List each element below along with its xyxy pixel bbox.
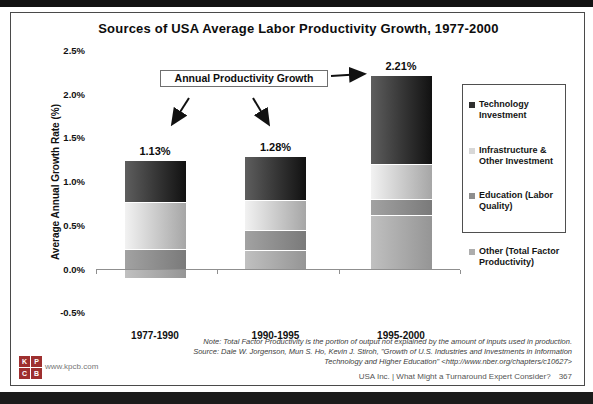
other-total-factor-productivity-swatch-icon	[469, 249, 475, 255]
y-tick-label-1.5pct: 1.5%	[41, 132, 85, 143]
bottom-letterbox-bar	[0, 392, 593, 404]
bar-total-label-1995-2000: 2.21%	[369, 60, 433, 72]
arrow-to-bar-1990-1995	[253, 98, 268, 123]
y-tick-label--0.5pct: -0.5%	[41, 307, 85, 318]
page-number: 367	[559, 372, 572, 381]
bar-segment-education-labor-quality	[371, 199, 432, 215]
bar-segment-technology-investment	[245, 157, 306, 200]
legend-item-infrastructure-other-investment: Infrastructure & Other Investment	[469, 145, 564, 167]
bar-segment-education-labor-quality	[245, 230, 306, 250]
slide: Sources of USA Average Labor Productivit…	[10, 12, 585, 386]
slide-footer: USA Inc. | What Might a Turnaround Exper…	[359, 372, 572, 381]
legend-label-education-labor-quality: Education (Labor Quality)	[479, 190, 564, 212]
bar-segment-divider	[125, 202, 186, 203]
screenshot-root: Sources of USA Average Labor Productivit…	[0, 0, 593, 404]
bar-segment-divider	[371, 199, 432, 200]
infrastructure-other-investment-swatch-icon	[469, 148, 475, 154]
y-tick-label-0.5pct: 0.5%	[41, 220, 85, 231]
x-axis-tick	[339, 270, 340, 274]
logo-letter-p: P	[31, 356, 42, 367]
bar-segment-education-labor-quality	[125, 249, 186, 269]
x-axis-tick	[460, 270, 461, 274]
note-line-3: Technology and Higher Education" <http:/…	[193, 357, 572, 367]
education-labor-quality-swatch-icon	[469, 193, 475, 199]
bar-segment-divider	[371, 164, 432, 165]
note-line-1: Note: Total Factor Productivity is the p…	[193, 337, 572, 347]
bar-segment-other-total-factor-productivity	[125, 269, 186, 278]
slide-title: Sources of USA Average Labor Productivit…	[11, 21, 586, 36]
bar-total-label-1977-1990: 1.13%	[123, 145, 187, 157]
bar-segment-infrastructure-other-investment	[125, 202, 186, 249]
y-tick-label-1.0pct: 1.0%	[41, 176, 85, 187]
bar-segment-technology-investment	[125, 161, 186, 201]
bar-segment-other-total-factor-productivity	[371, 215, 432, 269]
logo-letter-b: B	[31, 368, 42, 379]
x-axis-line	[96, 269, 460, 270]
legend-label-technology-investment: Technology Investment	[479, 99, 564, 121]
x-label-1977-1990: 1977-1990	[115, 330, 195, 341]
bar-segment-divider	[245, 230, 306, 231]
legend-label-other-total-factor-productivity: Other (Total Factor Productivity)	[479, 246, 564, 268]
bar-segment-divider	[245, 250, 306, 251]
legend-item-other-total-factor-productivity: Other (Total Factor Productivity)	[469, 246, 564, 268]
footer-title: USA Inc. | What Might a Turnaround Exper…	[359, 372, 551, 381]
note-line-2: Source: Dale W. Jorgenson, Mun S. Ho, Ke…	[193, 347, 572, 357]
kpcb-logo: KPCB	[19, 356, 42, 379]
logo-letter-k: K	[19, 356, 30, 367]
y-tick-label-0.0pct: 0.0%	[41, 264, 85, 275]
bar-segment-divider	[371, 215, 432, 216]
bar-segment-infrastructure-other-investment	[371, 164, 432, 199]
bar-segment-divider	[245, 200, 306, 201]
legend-label-infrastructure-other-investment: Infrastructure & Other Investment	[479, 145, 564, 167]
technology-investment-swatch-icon	[469, 102, 475, 108]
legend-item-education-labor-quality: Education (Labor Quality)	[469, 190, 564, 212]
y-tick-label-2.0pct: 2.0%	[41, 89, 85, 100]
legend-item-technology-investment: Technology Investment	[469, 99, 564, 121]
bar-segment-other-total-factor-productivity	[245, 250, 306, 269]
bar-segment-technology-investment	[371, 76, 432, 164]
logo-letter-c: C	[19, 368, 30, 379]
x-axis-tick	[217, 270, 218, 274]
top-letterbox-bar	[0, 0, 593, 7]
kpcb-url-text: www.kpcb.com	[45, 362, 98, 371]
y-tick-label-2.5pct: 2.5%	[41, 45, 85, 56]
bar-segment-infrastructure-other-investment	[245, 200, 306, 230]
bar-segment-divider	[125, 249, 186, 250]
arrow-to-bar-1995-2000	[331, 74, 363, 76]
bar-total-label-1990-1995: 1.28%	[244, 141, 308, 153]
x-axis-tick	[96, 270, 97, 274]
annual-productivity-growth-callout: Annual Productivity Growth	[160, 70, 328, 87]
arrow-to-bar-1977-1990	[173, 98, 189, 123]
source-notes: Note: Total Factor Productivity is the p…	[193, 337, 572, 367]
